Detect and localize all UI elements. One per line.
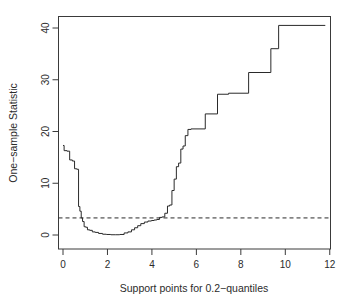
x-tick-label: 8 bbox=[238, 259, 244, 270]
y-tick-label: 0 bbox=[40, 232, 51, 238]
chart-canvas: 010203040 024681012 Support points for 0… bbox=[0, 0, 350, 302]
chart-background bbox=[0, 0, 350, 302]
x-tick-label: 4 bbox=[149, 259, 155, 270]
x-tick-label: 10 bbox=[280, 259, 292, 270]
y-tick-label: 30 bbox=[40, 74, 51, 86]
y-tick-label: 20 bbox=[40, 126, 51, 138]
y-axis-title: One−sample Statistic bbox=[7, 83, 19, 183]
x-tick-label: 0 bbox=[60, 259, 66, 270]
y-tick-label: 40 bbox=[40, 22, 51, 34]
chart-figure: 010203040 024681012 Support points for 0… bbox=[0, 0, 350, 302]
y-tick-label: 10 bbox=[40, 177, 51, 189]
x-tick-label: 6 bbox=[194, 259, 200, 270]
x-tick-label: 12 bbox=[324, 259, 336, 270]
x-tick-label: 2 bbox=[105, 259, 111, 270]
x-axis-title: Support points for 0.2−quantiles bbox=[120, 282, 269, 294]
